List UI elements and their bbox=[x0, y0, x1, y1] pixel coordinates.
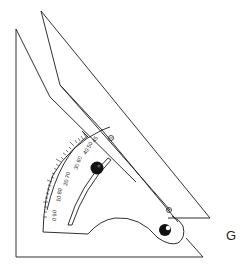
arm-inner-edge bbox=[102, 130, 178, 222]
screw-top bbox=[109, 136, 114, 141]
scale-label-0-90: 0 90 bbox=[51, 210, 57, 221]
scale-label-10-80: 10 80 bbox=[55, 188, 63, 202]
scale-label-30-60: 30 60 bbox=[72, 155, 83, 170]
scale-label-45: 45 bbox=[91, 135, 99, 143]
scale-label-20-70: 20 70 bbox=[62, 171, 71, 186]
set-square-diagram: 45 40 50 30 60 20 70 10 80 0 90 bbox=[0, 0, 250, 267]
scale-label-40-50: 40 50 bbox=[82, 141, 94, 156]
base-triangle bbox=[16, 29, 203, 257]
pivot-knob bbox=[159, 224, 171, 236]
locking-knob bbox=[91, 162, 104, 175]
figure-caption-letter: G bbox=[226, 228, 236, 243]
upper-arm bbox=[41, 11, 210, 218]
